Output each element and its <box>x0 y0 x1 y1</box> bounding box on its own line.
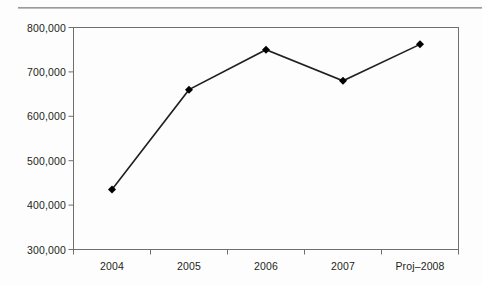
y-tick-label: 500,000 <box>8 155 66 167</box>
data-point-markers <box>108 40 424 193</box>
plot-area: 300,000400,000500,000600,000700,000800,0… <box>0 0 482 285</box>
data-point-marker <box>262 46 270 54</box>
y-axis-ticks <box>69 28 74 250</box>
data-point-marker <box>416 40 424 48</box>
line-chart-svg <box>0 0 482 285</box>
y-tick-label: 400,000 <box>8 199 66 211</box>
chart-figure: 300,000400,000500,000600,000700,000800,0… <box>0 0 482 285</box>
y-tick-label: 800,000 <box>8 22 66 34</box>
data-series-line <box>112 44 420 189</box>
y-tick-label: 600,000 <box>8 110 66 122</box>
plot-border <box>74 28 459 250</box>
x-axis-ticks <box>74 250 459 255</box>
x-tick-label: Proj–2008 <box>395 260 444 272</box>
y-tick-label: 700,000 <box>8 66 66 78</box>
data-point-marker <box>339 77 347 85</box>
x-tick-label: 2004 <box>100 260 124 272</box>
y-tick-label: 300,000 <box>8 244 66 256</box>
x-tick-label: 2006 <box>254 260 278 272</box>
x-tick-label: 2007 <box>331 260 355 272</box>
x-tick-label: 2005 <box>177 260 201 272</box>
